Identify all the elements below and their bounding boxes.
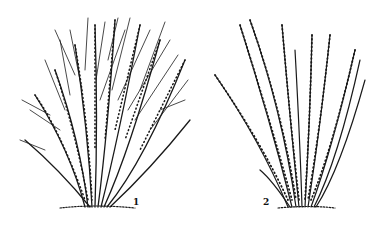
panel-label-2: 2: [263, 197, 269, 207]
shrub-1-drawing: [20, 18, 190, 208]
shrub-illustration: 1 2: [0, 0, 375, 225]
panel-label-1: 1: [133, 197, 139, 207]
shrub-2-drawing: [215, 20, 365, 208]
